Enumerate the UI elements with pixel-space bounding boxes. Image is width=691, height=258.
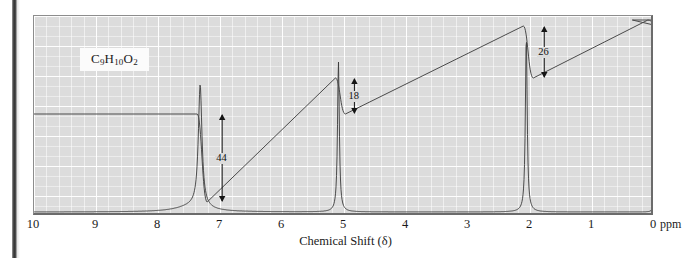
integration-value-18: 18	[347, 91, 360, 102]
x-axis-unit-label: ppm	[660, 217, 681, 232]
x-tick-1: 1	[588, 217, 594, 232]
x-tick-9: 9	[92, 217, 98, 232]
arrowhead-up-18	[351, 78, 357, 84]
x-axis-tick-labels: 109876543210	[33, 217, 653, 235]
x-tick-4: 4	[402, 217, 408, 232]
x-tick-6: 6	[278, 217, 284, 232]
nmr-spectrum-plot: C9H10O2 44 18 26	[33, 15, 653, 215]
arrowhead-up-26	[541, 26, 547, 32]
x-tick-5: 5	[340, 217, 346, 232]
x-tick-10: 10	[27, 217, 40, 232]
arrowhead-down-26	[541, 72, 547, 78]
x-tick-0: 0	[650, 217, 656, 232]
integration-value-26: 26	[537, 47, 550, 58]
arrowhead-up-44	[219, 114, 225, 120]
arrowhead-down-44	[219, 196, 225, 202]
integration-value-44: 44	[215, 153, 228, 164]
spectrum-trace-svg	[34, 16, 653, 215]
x-tick-7: 7	[216, 217, 222, 232]
x-tick-2: 2	[526, 217, 532, 232]
x-tick-8: 8	[154, 217, 160, 232]
molecular-formula-label: C9H10O2	[80, 48, 149, 71]
page-edge-highlight	[17, 0, 20, 258]
x-axis-title: Chemical Shift (δ)	[0, 234, 691, 249]
x-tick-3: 3	[464, 217, 470, 232]
